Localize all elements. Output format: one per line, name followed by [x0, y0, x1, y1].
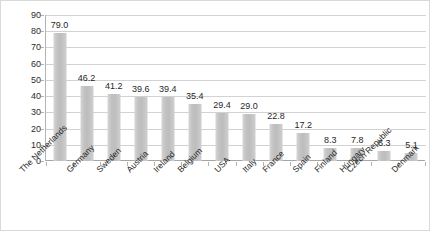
bar-value-label: 39.4	[159, 85, 177, 94]
bar-group[interactable]: 35.4	[181, 15, 208, 161]
x-axis-tick-mark	[46, 162, 47, 166]
y-axis-tick-label: 50	[5, 76, 41, 85]
y-axis-tick-mark	[41, 64, 44, 65]
y-axis-tick-mark	[41, 15, 44, 16]
bar-value-label: 8.3	[324, 136, 337, 145]
y-axis-tick-label: 30	[5, 108, 41, 117]
bar-value-label: 46.2	[78, 74, 96, 83]
bar-value-label: 39.6	[132, 85, 150, 94]
bar-group[interactable]: 41.2	[100, 15, 127, 161]
bar-group[interactable]: 39.6	[127, 15, 154, 161]
bar-value-label: 35.4	[186, 92, 204, 101]
x-axis: The NetherlandsGermanySwedenAustriaIrela…	[46, 162, 425, 231]
bar[interactable]	[215, 113, 228, 161]
x-axis-tick-mark	[371, 162, 372, 166]
bar-group[interactable]: 22.8	[263, 15, 290, 161]
bars-layer: 79.046.241.239.639.435.429.429.022.817.2…	[46, 15, 425, 161]
bar-value-label: 7.8	[351, 136, 364, 145]
bar-group[interactable]: 8.3	[317, 15, 344, 161]
bar-value-label: 29.0	[240, 102, 258, 111]
y-axis-tick-mark	[41, 129, 44, 130]
y-axis-tick-mark	[41, 80, 44, 81]
bar[interactable]	[378, 151, 391, 161]
chart-container: 0102030405060708090 79.046.241.239.639.4…	[0, 0, 430, 231]
y-axis-tick-mark	[41, 31, 44, 32]
y-axis: 0102030405060708090	[1, 15, 41, 161]
bar-value-label: 79.0	[51, 21, 69, 30]
bar-group[interactable]: 46.2	[73, 15, 100, 161]
y-axis-tick-label: 80	[5, 27, 41, 36]
x-axis-tick-mark	[208, 162, 209, 166]
y-axis-tick-label: 40	[5, 92, 41, 101]
bar-value-label: 22.8	[267, 112, 285, 121]
y-axis-tick-label: 90	[5, 11, 41, 20]
bar-group[interactable]: 5.1	[398, 15, 425, 161]
y-axis-tick-mark	[41, 47, 44, 48]
x-axis-tick-mark	[425, 162, 426, 166]
x-axis-tick-mark	[236, 162, 237, 166]
y-axis-tick-mark	[41, 161, 44, 162]
y-axis-tick-mark	[41, 112, 44, 113]
bar-value-label: 29.4	[213, 101, 231, 110]
bar-group[interactable]: 17.2	[290, 15, 317, 161]
bar-value-label: 17.2	[294, 121, 312, 130]
y-axis-tick-label: 70	[5, 43, 41, 52]
bar-value-label: 41.2	[105, 82, 123, 91]
bar[interactable]	[243, 114, 256, 161]
y-axis-tick-label: 60	[5, 60, 41, 69]
bar-group[interactable]: 39.4	[154, 15, 181, 161]
y-axis-tick-label: 20	[5, 125, 41, 134]
bar-group[interactable]: 29.4	[208, 15, 235, 161]
bar-group[interactable]: 29.0	[236, 15, 263, 161]
y-axis-tick-mark	[41, 96, 44, 97]
bar-group[interactable]: 7.8	[344, 15, 371, 161]
